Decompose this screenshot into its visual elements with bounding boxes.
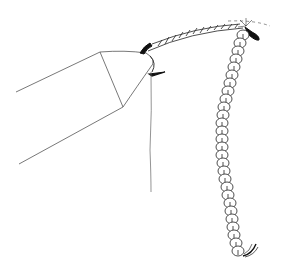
chain-stitch [232,246,244,256]
illustration-canvas [0,0,285,265]
crochet-drawing [0,0,285,265]
